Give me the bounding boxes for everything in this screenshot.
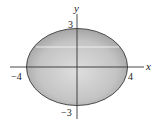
diagram-canvas: y x 3 −3 −4 4 [0,0,156,129]
tick-x-pos: 4 [128,71,133,82]
x-axis-label: x [145,60,151,72]
ellipse-diagram: y x 3 −3 −4 4 [0,0,156,129]
tick-x-neg: −4 [11,71,22,82]
tick-y-pos: 3 [68,19,73,30]
tick-y-neg: −3 [61,107,72,118]
y-axis-label: y [73,2,79,14]
